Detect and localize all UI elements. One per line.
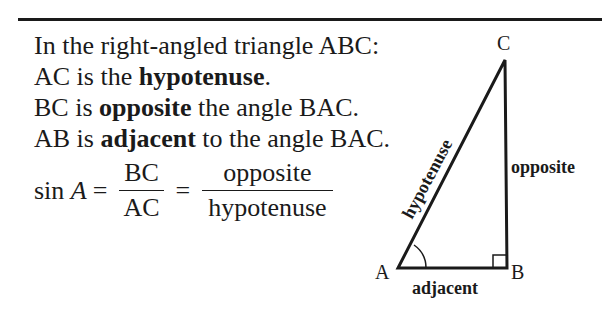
angle-arc-icon — [414, 245, 426, 268]
vertex-a-label: A — [375, 261, 390, 283]
triangle-diagram: A B C opposite adjacent hypotenuse — [0, 0, 615, 313]
vertex-b-label: B — [511, 261, 524, 283]
right-angle-marker-icon — [493, 255, 506, 268]
vertex-c-label: C — [497, 32, 510, 54]
adjacent-side-label: adjacent — [412, 278, 478, 298]
triangle-shape — [398, 60, 507, 268]
opposite-side-label: opposite — [511, 157, 575, 177]
